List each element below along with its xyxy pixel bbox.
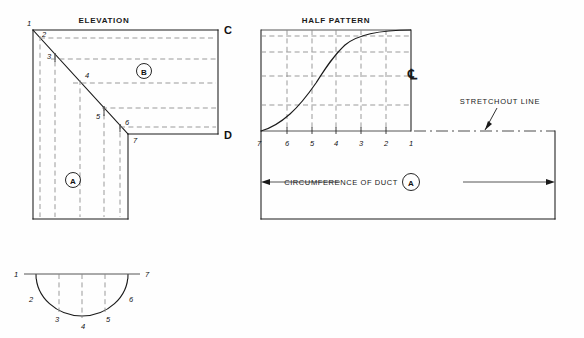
plan-station-label-2: 2: [28, 295, 34, 304]
elevation-station-label-7: 7: [133, 136, 138, 145]
elevation-station-label-6: 6: [125, 118, 130, 127]
plan-station-label-6: 6: [129, 295, 134, 304]
drawing-sheet: ELEVATION: [0, 0, 584, 338]
elevation-station-label-4: 4: [85, 71, 89, 80]
dimension-arrow-left: [261, 179, 270, 185]
plan-station-label-3: 3: [55, 315, 60, 324]
half-pattern-station-label-1: 1: [409, 139, 413, 148]
circumference-label: CIRCUMFERENCE OF DUCT: [284, 178, 398, 187]
half-pattern-station-label-6: 6: [285, 139, 290, 148]
centerline-symbol: ℄: [407, 66, 418, 82]
plan-station-label-4: 4: [81, 322, 85, 331]
balloon-a-elevation: A: [66, 173, 81, 188]
stretchout-pattern: STRETCHOUT LINE CIRCUMFERENCE OF DUCT A: [261, 97, 555, 219]
half-pattern-view: HALF PATTERN: [257, 16, 418, 148]
elevation-view: ELEVATION: [27, 16, 232, 219]
balloon-a-stretchout: A: [403, 174, 420, 191]
plan-half-section: 1 2 3 4 5 6 7: [14, 270, 150, 331]
balloon-b: B: [137, 64, 152, 79]
elevation-corner-label-c: C: [224, 24, 232, 36]
elevation-station-label-5: 5: [96, 112, 101, 121]
half-pattern-station-label-4: 4: [334, 139, 338, 148]
balloon-b-label: B: [141, 68, 147, 77]
half-pattern-title: HALF PATTERN: [302, 16, 371, 25]
half-pattern-station-label-2: 2: [383, 139, 389, 148]
stretchout-line-label: STRETCHOUT LINE: [460, 97, 540, 106]
elevation-title: ELEVATION: [79, 16, 130, 25]
elevation-miter-line: [33, 30, 128, 134]
elevation-station-label-1: 1: [27, 19, 31, 28]
plan-station-label-1: 1: [14, 270, 18, 279]
elevation-station-label-3: 3: [47, 52, 52, 61]
half-pattern-station-label-5: 5: [310, 139, 315, 148]
balloon-a-stretchout-label: A: [408, 179, 414, 188]
stretchout-leader-arrowhead: [485, 121, 492, 130]
plan-station-label-7: 7: [145, 270, 150, 279]
dimension-arrow-right: [546, 179, 555, 185]
elevation-station-label-2: 2: [41, 30, 47, 39]
technical-drawing-canvas: ELEVATION: [0, 0, 584, 338]
elevation-corner-label-d: D: [224, 129, 232, 141]
plan-station-label-5: 5: [106, 315, 111, 324]
balloon-a-label: A: [70, 177, 76, 186]
half-pattern-station-label-3: 3: [359, 139, 364, 148]
